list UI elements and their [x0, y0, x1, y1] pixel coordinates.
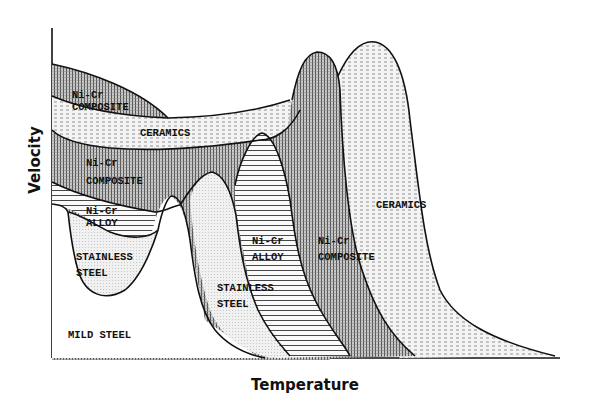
label-left-stainless-2: STEEL [76, 267, 108, 279]
label-ceramics-band: CERAMICS [140, 127, 190, 139]
label-peak-stainless-1: STAINLESS [217, 282, 274, 294]
velocity-temperature-diagram: Ni-Cr COMPOSITE CERAMICS Ni-Cr COMPOSITE… [0, 0, 599, 415]
y-axis-title: Velocity [26, 126, 44, 194]
label-peak-alloy-1: Ni-Cr [252, 235, 284, 247]
label-mild-steel: MILD STEEL [68, 329, 131, 341]
label-left-alloy-2: ALLOY [86, 217, 118, 229]
label-mid-composite-1: Ni-Cr [86, 157, 118, 169]
label-peak-ceramics: CERAMICS [376, 199, 426, 211]
label-left-alloy-1: Ni-Cr [86, 205, 118, 217]
label-peak-composite-2: COMPOSITE [318, 251, 375, 263]
label-peak-alloy-2: ALLOY [252, 251, 284, 263]
x-axis-title: Temperature [251, 376, 359, 394]
label-peak-composite-1: Ni-Cr [318, 235, 350, 247]
label-top-composite-2: COMPOSITE [72, 101, 129, 113]
label-mid-composite-2: COMPOSITE [86, 175, 143, 187]
label-peak-stainless-2: STEEL [217, 298, 249, 310]
label-top-composite-1: Ni-Cr [72, 89, 104, 101]
label-left-stainless-1: STAINLESS [76, 251, 133, 263]
